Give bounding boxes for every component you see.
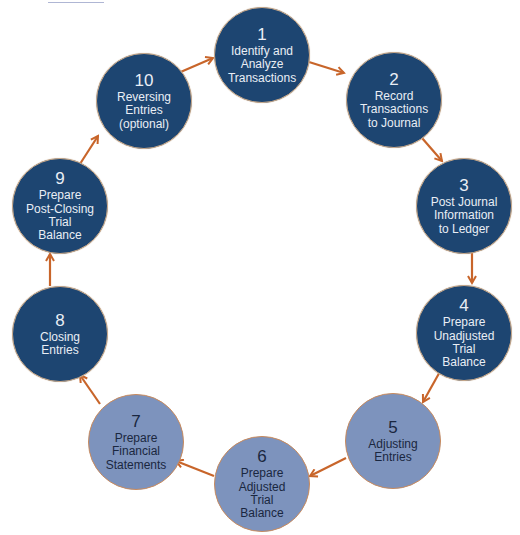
step-2-record-transactions: 2 Record Transactions to Journal [346,52,442,148]
step-label: Closing Entries [40,331,80,358]
step-label: Prepare Post-Closing Trial Balance [26,189,94,243]
step-number: 8 [55,311,64,330]
step-number: 7 [131,412,140,431]
step-label: Record Transactions to Journal [360,90,428,130]
step-number: 2 [389,70,398,89]
step-label: Identify and Analyze Transactions [228,45,296,85]
arrow-7-to-8 [80,375,100,404]
step-number: 9 [55,169,64,188]
step-1-identify-analyze-transactions: 1 Identify and Analyze Transactions [214,7,310,103]
step-label: Reversing Entries (optional) [117,91,171,131]
step-6-adjusted-trial-balance: 6 Prepare Adjusted Trial Balance [214,436,310,532]
step-label: Prepare Unadjusted Trial Balance [434,316,495,370]
step-number: 3 [459,176,468,195]
step-label: Adjusting Entries [368,438,417,465]
arrow-2-to-3 [422,138,442,161]
step-4-unadjusted-trial-balance: 4 Prepare Unadjusted Trial Balance [416,285,512,381]
step-3-post-to-ledger: 3 Post Journal Information to Ledger [416,158,512,254]
step-5-adjusting-entries: 5 Adjusting Entries [345,393,441,489]
arrow-5-to-6 [310,458,346,476]
step-number: 6 [257,447,266,466]
step-7-financial-statements: 7 Prepare Financial Statements [88,394,184,490]
step-number: 4 [459,296,468,315]
step-number: 5 [388,418,397,437]
step-number: 10 [135,71,154,90]
step-label: Post Journal Information to Ledger [431,196,498,236]
step-number: 1 [257,25,266,44]
step-label: Prepare Financial Statements [106,432,167,472]
arrow-6-to-7 [176,461,214,476]
step-8-closing-entries: 8 Closing Entries [12,286,108,382]
step-9-post-closing-trial-balance: 9 Prepare Post-Closing Trial Balance [12,158,108,254]
step-10-reversing-entries: 10 Reversing Entries (optional) [96,53,192,149]
arrow-1-to-2 [309,62,344,73]
step-label: Prepare Adjusted Trial Balance [239,467,286,521]
